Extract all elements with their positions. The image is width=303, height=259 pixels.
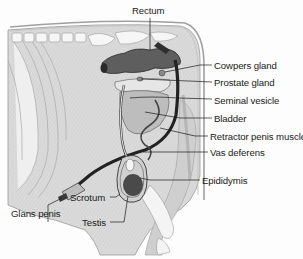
label-testis: Testis: [82, 218, 106, 228]
label-retractor-penis-muscle: Retractor penis muscle: [210, 132, 303, 142]
label-cowpers-gland: Cowpers gland: [214, 61, 277, 71]
label-rectum: Rectum: [132, 6, 164, 16]
diagram-artwork: [0, 0, 303, 259]
label-bladder: Bladder: [214, 114, 246, 124]
label-vas-deferens: Vas deferens: [210, 148, 265, 158]
label-glans-penis: Glans penis: [11, 209, 61, 219]
label-epididymis: Epididymis: [202, 176, 247, 186]
label-scrotum: Scrotum: [70, 193, 105, 203]
label-prostate-gland: Prostate gland: [214, 78, 274, 88]
scrotum-testis: [117, 156, 147, 203]
anatomy-diagram: Rectum Cowpers gland Prostate gland Semi…: [0, 0, 303, 259]
label-seminal-vesicle: Seminal vesicle: [214, 96, 279, 106]
